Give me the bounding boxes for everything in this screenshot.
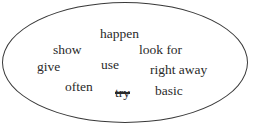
word-right-away: right away bbox=[150, 63, 207, 77]
word-try-struck: try bbox=[115, 86, 130, 100]
word-happen: happen bbox=[100, 27, 139, 41]
word-basic: basic bbox=[155, 84, 183, 98]
word-give: give bbox=[37, 60, 60, 74]
word-look-for: look for bbox=[139, 43, 182, 57]
word-use: use bbox=[101, 58, 119, 72]
word-often: often bbox=[65, 80, 93, 94]
word-show: show bbox=[53, 43, 82, 57]
